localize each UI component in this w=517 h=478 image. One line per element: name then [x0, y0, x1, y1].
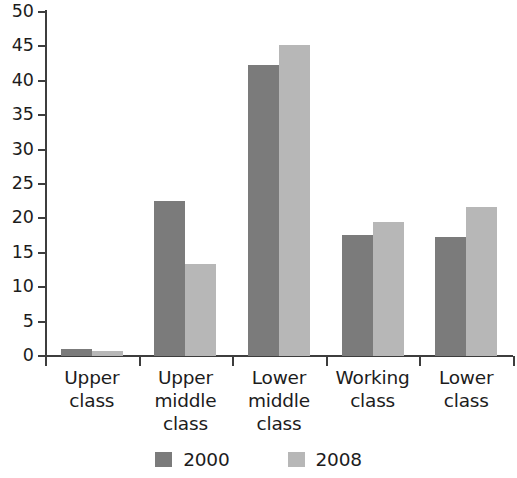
y-axis-tick-label: 50	[0, 3, 34, 21]
bar-2000-Upper-class	[61, 349, 92, 356]
x-axis-tick-mark	[139, 356, 141, 366]
x-axis-tick-mark	[45, 356, 47, 366]
y-axis-tick-label: 5	[0, 313, 34, 331]
bar-2000-Lower-class	[435, 237, 466, 356]
bars-container	[45, 0, 513, 356]
legend-label-2000: 2000	[183, 450, 229, 469]
bar-2000-Working-class	[342, 235, 373, 356]
y-axis-tick-label: 45	[0, 37, 34, 55]
x-axis-tick-mark	[232, 356, 234, 366]
x-axis-tick-mark	[419, 356, 421, 366]
x-axis-category-label: Workingclass	[326, 366, 420, 412]
bar-chart: 05101520253035404550 UpperclassUppermidd…	[0, 0, 517, 478]
bar-2008-Lower-middle-class	[279, 45, 310, 356]
bar-2008-Lower-class	[466, 207, 497, 356]
bar-2000-Upper-middle-class	[154, 201, 185, 356]
y-axis-tick-label: 0	[0, 347, 34, 365]
bar-2008-Working-class	[373, 222, 404, 356]
bar-2008-Upper-class	[92, 351, 123, 357]
bar-2000-Lower-middle-class	[248, 65, 279, 356]
y-axis-tick-label: 40	[0, 72, 34, 90]
y-axis-tick-label: 15	[0, 244, 34, 262]
x-axis-tick-mark	[513, 356, 515, 366]
y-axis-tick-labels: 05101520253035404550	[0, 0, 34, 478]
chart-legend: 2000 2008	[0, 450, 517, 469]
legend-label-2008: 2008	[316, 450, 362, 469]
x-axis-category-label: Lowermiddleclass	[232, 366, 326, 435]
y-axis-tick-label: 20	[0, 209, 34, 227]
y-axis-tick-label: 10	[0, 278, 34, 296]
y-axis-tick-label: 35	[0, 106, 34, 124]
legend-swatch-icon-2000	[155, 452, 172, 467]
legend-swatch-icon-2008	[288, 452, 305, 467]
x-axis-category-label: Upperclass	[45, 366, 139, 412]
legend-item-2008: 2008	[288, 450, 362, 469]
x-axis-category-label: Uppermiddleclass	[139, 366, 233, 435]
legend-item-2000: 2000	[155, 450, 229, 469]
bar-2008-Upper-middle-class	[185, 264, 216, 356]
x-axis-category-labels: UpperclassUppermiddleclassLowermiddlecla…	[45, 366, 513, 446]
x-axis-tick-mark	[326, 356, 328, 366]
x-axis-category-label: Lowerclass	[419, 366, 513, 412]
y-axis-tick-label: 25	[0, 175, 34, 193]
y-axis-tick-label: 30	[0, 141, 34, 159]
